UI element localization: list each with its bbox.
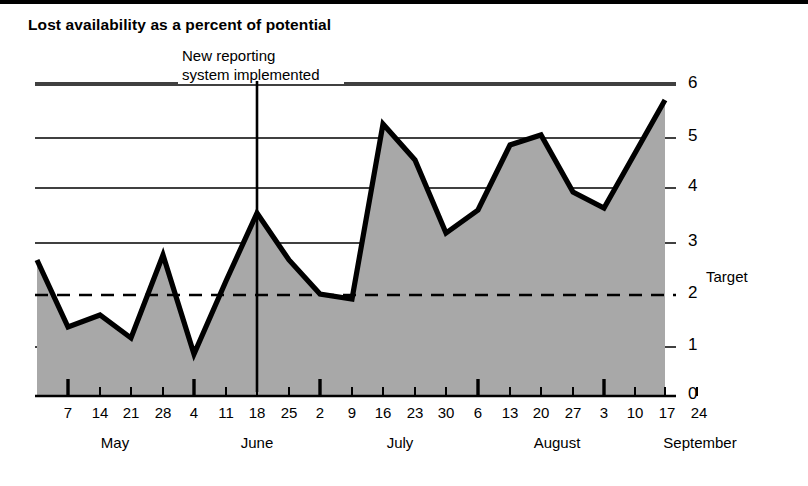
x-tick-label: 4: [190, 404, 198, 421]
x-tick-label: 28: [155, 404, 172, 421]
chart-root: Lost availability as a percent of potent…: [0, 0, 808, 486]
x-tick-label: 10: [627, 404, 644, 421]
y-tick-label-0: 0: [688, 384, 714, 404]
x-tick-label: 16: [375, 404, 392, 421]
chart-plot-area: [0, 0, 808, 486]
x-tick-label: 9: [348, 404, 356, 421]
x-tick-label: 11: [218, 404, 234, 421]
x-tick-label: 18: [249, 404, 266, 421]
x-month-label-september: September: [663, 434, 736, 451]
x-tick-label: 13: [502, 404, 519, 421]
x-tick-label: 7: [64, 404, 72, 421]
x-month-label-june: June: [241, 434, 274, 451]
y-tick-label-3: 3: [688, 231, 714, 251]
x-tick-label: 25: [281, 404, 298, 421]
x-month-label-july: July: [387, 434, 414, 451]
x-month-label-may: May: [101, 434, 129, 451]
x-tick-label: 14: [92, 404, 109, 421]
x-tick-label: 2: [316, 404, 324, 421]
x-tick-label: 21: [123, 404, 140, 421]
x-tick-label: 27: [565, 404, 582, 421]
area-fill: [37, 100, 665, 396]
annotation-text-line2: system implemented: [182, 65, 320, 84]
x-tick-label: 3: [600, 404, 608, 421]
y-tick-label-6: 6: [688, 73, 714, 93]
y-tick-label-4: 4: [688, 176, 714, 196]
x-month-label-august: August: [534, 434, 581, 451]
x-tick-label: 6: [474, 404, 482, 421]
x-tick-label: 17: [659, 404, 676, 421]
x-tick-label: 30: [438, 404, 455, 421]
x-tick-label: 20: [533, 404, 550, 421]
x-tick-label: 23: [407, 404, 424, 421]
y-tick-label-1: 1: [688, 335, 714, 355]
y-tick-label-2: 2: [688, 283, 714, 303]
annotation-text-line1: New reporting: [182, 46, 275, 65]
y-tick-label-5: 5: [688, 126, 714, 146]
x-tick-label: 24: [691, 404, 708, 421]
